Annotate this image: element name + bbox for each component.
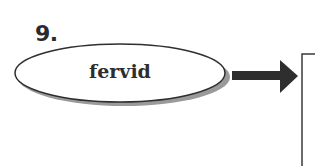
- answer-box[interactable]: [302, 54, 315, 166]
- vocabulary-word: fervid: [70, 60, 170, 82]
- diagram-canvas: [0, 0, 315, 166]
- right-arrow-icon: [232, 60, 298, 93]
